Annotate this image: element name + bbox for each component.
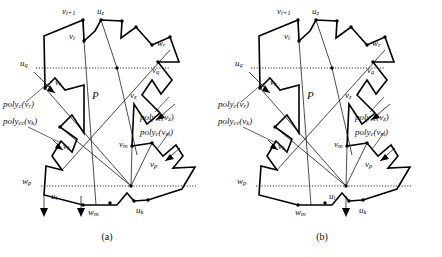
vertex-dot [273, 125, 276, 128]
leader-poly-c-vr-a [26, 84, 47, 102]
label-v-i-plus-1-b: vi+1 [277, 6, 290, 16]
vertex-dot [115, 66, 118, 69]
vertex-dot [99, 18, 102, 21]
vertex-dot [58, 125, 61, 128]
label-u-k-b: uk [359, 205, 367, 215]
vertex-dot [365, 43, 368, 46]
vertex-dot [150, 141, 153, 144]
label-u-k-a: uk [136, 205, 144, 215]
annotation-poly-cc-vk-b: polycc(vk) [217, 116, 252, 126]
vertex-dot [296, 18, 299, 21]
vertex-dot [345, 144, 348, 147]
annotation-poly-c-vm-b: polyc(vm) [354, 127, 388, 137]
annotation-poly-c-vr-a: polyc(vr) [2, 99, 34, 109]
vertex-dot [349, 25, 352, 28]
label-u-z-a: uz [97, 6, 105, 16]
vertex-dot [347, 199, 350, 202]
vertex-dot [130, 144, 133, 147]
vertex-dot [371, 60, 374, 63]
label-v-k-a: vk [63, 141, 70, 151]
label-v-i-plus-1-a: vi+1 [62, 6, 75, 16]
vertex-dot [81, 18, 84, 21]
vertex-dot [156, 60, 159, 63]
label-w-m-a: wm [88, 207, 99, 217]
vertex-dot [344, 184, 347, 187]
vertex-dot [335, 19, 338, 22]
vertex-dot [120, 19, 123, 22]
vertex-dot [82, 39, 85, 42]
vertex-dot [129, 184, 132, 187]
arrow-ui-down-a [40, 195, 48, 217]
label-u-q-a: uq [20, 58, 29, 68]
label-v-k-b: vk [278, 141, 285, 151]
label-w-p-b: wp [237, 176, 247, 186]
vertex-dot [330, 66, 333, 69]
vertex-dot [108, 201, 111, 204]
interior-label-P-b: P [306, 89, 314, 101]
vertex-dot [150, 43, 153, 46]
vertex-dot [383, 35, 386, 38]
vertex-dot [146, 198, 149, 201]
vertex-dot [132, 199, 135, 202]
vertex-dot [43, 86, 46, 89]
leader-poly-cc-vz-a [155, 97, 169, 112]
panel-a: vi+1 uz vi wr uq vq vr vz vk vm vp wp ui… [2, 6, 196, 243]
caption-a: (a) [101, 231, 112, 243]
leader-poly-cc-vz-b [370, 97, 384, 112]
interior-label-P-a: P [91, 89, 99, 101]
vertex-dot [258, 86, 261, 89]
panel-b: vi+1 uz vi wr uq vq vr vz vk vm vp wp ui… [217, 6, 411, 243]
vertex-dot [81, 203, 84, 206]
vertex-dot [168, 35, 171, 38]
leader-poly-cc-vk-b [243, 127, 276, 143]
leader-poly-cc-vk-a [28, 127, 61, 143]
vertex-dot [297, 39, 300, 42]
leader-poly-c-vr-b [241, 84, 262, 102]
label-u-z-b: uz [312, 6, 320, 16]
label-u-q-b: uq [235, 58, 244, 68]
figure-canvas: vi+1 uz vi wr uq vq vr vz vk vm vp wp ui… [0, 0, 442, 257]
vertex-dot [314, 18, 317, 21]
vertex-dot [323, 201, 326, 204]
vertex-dot [134, 25, 137, 28]
annotation-poly-c-vm-a: polyc(vm) [139, 127, 173, 137]
vertex-dot [365, 141, 368, 144]
annotation-poly-cc-vk-a: polycc(vk) [2, 116, 37, 126]
caption-b: (b) [316, 231, 328, 243]
annotation-poly-c-vr-b: polyc(vr) [217, 99, 249, 109]
label-w-m-b: wm [295, 207, 306, 217]
label-w-p-a: wp [22, 176, 32, 186]
vertex-dot [361, 198, 364, 201]
